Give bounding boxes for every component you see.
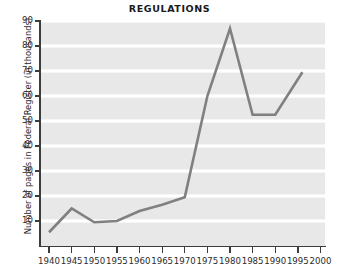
chart-title: REGULATIONS: [0, 3, 339, 14]
y-tick-mark: [35, 195, 39, 196]
y-tick-label-wrap: 60: [0, 90, 33, 101]
y-tick-label-wrap: 90: [0, 15, 33, 26]
x-tick-mark: [320, 247, 321, 253]
gridline: [40, 119, 325, 122]
y-tick-label-wrap: 80: [0, 40, 33, 51]
y-tick-label: 70: [0, 65, 33, 75]
gridlines: [40, 21, 325, 223]
y-tick-label: 20: [0, 190, 33, 200]
x-axis-line: [39, 246, 326, 248]
y-tick-label-wrap: 10: [0, 215, 33, 226]
y-tick-label-wrap: 50: [0, 115, 33, 126]
x-tick-mark: [184, 247, 185, 253]
plot-area: [40, 21, 325, 246]
y-tick-label-wrap: 30: [0, 165, 33, 176]
x-tick-mark: [162, 247, 163, 253]
data-series-line: [49, 29, 302, 233]
y-tick-label: 80: [0, 40, 33, 50]
y-tick-mark: [35, 120, 39, 121]
y-tick-mark: [35, 20, 39, 21]
x-tick-mark: [48, 247, 49, 253]
y-tick-mark: [35, 45, 39, 46]
x-tick-mark: [297, 247, 298, 253]
gridline: [40, 169, 325, 172]
y-tick-label: 50: [0, 115, 33, 125]
x-tick-mark: [207, 247, 208, 253]
gridline: [40, 44, 325, 47]
x-tick-label: 2000: [305, 256, 335, 266]
y-tick-label-wrap: 70: [0, 65, 33, 76]
x-tick-mark: [275, 247, 276, 253]
y-tick-mark: [35, 70, 39, 71]
y-tick-mark: [35, 95, 39, 96]
gridline: [40, 69, 325, 72]
x-tick-mark: [116, 247, 117, 253]
plot-svg: [40, 21, 325, 246]
y-tick-label: 40: [0, 140, 33, 150]
gridline: [40, 144, 325, 147]
gridline: [40, 94, 325, 97]
y-tick-mark: [35, 145, 39, 146]
y-tick-label: 60: [0, 90, 33, 100]
y-tick-label-wrap: 40: [0, 140, 33, 151]
y-tick-label: 10: [0, 215, 33, 225]
y-tick-label: 30: [0, 165, 33, 175]
x-tick-mark: [71, 247, 72, 253]
x-tick-mark: [139, 247, 140, 253]
x-tick-mark: [229, 247, 230, 253]
gridline: [40, 219, 325, 222]
y-axis-ticks: 102030405060708090: [0, 0, 40, 273]
x-tick-mark: [252, 247, 253, 253]
gridline: [40, 21, 325, 23]
series-path: [49, 29, 302, 233]
y-tick-mark: [35, 220, 39, 221]
regulations-line-chart: REGULATIONS Number of pages in Federal R…: [0, 0, 339, 273]
y-tick-label: 90: [0, 15, 33, 25]
y-tick-mark: [35, 170, 39, 171]
x-tick-mark: [94, 247, 95, 253]
y-tick-label-wrap: 20: [0, 190, 33, 201]
